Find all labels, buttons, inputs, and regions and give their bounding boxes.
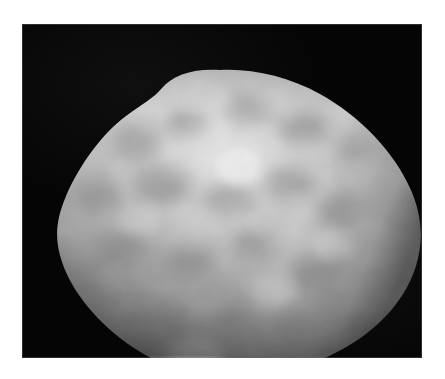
page-bottom-margin xyxy=(0,358,445,379)
image-plate xyxy=(22,24,422,358)
object-container xyxy=(22,24,422,358)
film-grain xyxy=(22,24,422,358)
mottled-spheroid-image xyxy=(22,24,422,358)
figure-root xyxy=(0,0,445,379)
